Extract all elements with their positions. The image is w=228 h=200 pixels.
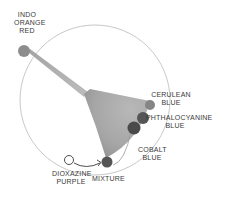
label-line: DIOXAZINE [52,170,90,178]
mix-arrow [74,163,100,167]
indo-orange-red-dot [18,45,30,57]
label-line: RED [14,27,40,35]
cobalt-blue-dot [128,122,141,135]
phthalocyanine-blue-label: PHTHALOCYANINE BLUE [146,114,204,130]
cobalt-blue-label: COBALT BLUE [138,146,166,162]
label-line: INDO [14,11,40,19]
label-line: COBALT [138,146,166,154]
cerulean-blue-label: CERULEAN BLUE [151,91,191,107]
label-line: PURPLE [52,178,90,186]
mixture-label: MIXTURE [92,175,125,183]
dioxazine-purple-dot [65,156,74,165]
label-line: BLUE [146,122,204,130]
label-line: CERULEAN [151,91,191,99]
label-line: BLUE [151,99,191,107]
label-line: PHTHALOCYANINE [146,114,204,122]
label-line: ORANGE [14,19,40,27]
label-line: BLUE [138,154,166,162]
indo-orange-red-label: INDO ORANGE RED [14,11,40,35]
dioxazine-purple-label: DIOXAZINE PURPLE [52,170,90,186]
indo-spoke [28,49,88,97]
mixture-dot [102,157,113,168]
